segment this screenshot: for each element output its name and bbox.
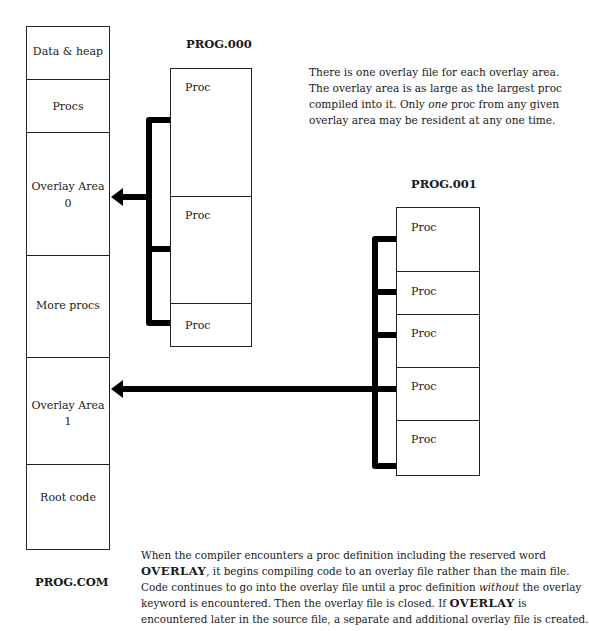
note-line: overlay area may be resident at any one …	[309, 112, 562, 128]
overlay-file-title-000: PROG.000	[186, 37, 252, 51]
segment-label: Overlay Area	[27, 398, 109, 414]
proc-label: Proc	[411, 433, 436, 447]
proc-block: Proc	[171, 304, 251, 348]
bracket-prog-001	[122, 239, 396, 466]
note-line: keyword is encountered. Then the overlay…	[141, 595, 589, 611]
note-overlay-files: There is one overlay file for each overl…	[309, 64, 562, 128]
segment-more-procs: More procs	[27, 256, 109, 358]
note-line: encountered later in the source file, a …	[141, 611, 589, 627]
overlay-file-000-column: Proc Proc Proc	[170, 68, 252, 347]
segment-sublabel: 0	[27, 196, 109, 212]
note-text: the overlay	[519, 581, 581, 593]
note-line: There is one overlay file for each overl…	[309, 64, 562, 80]
note-text: Code continues to go into the overlay fi…	[141, 581, 479, 593]
note-line: Code continues to go into the overlay fi…	[141, 579, 589, 595]
bracket-prog-000	[122, 120, 170, 323]
segment-label: Overlay Area	[27, 179, 109, 195]
note-text: proc from any given	[448, 98, 559, 110]
segment-sublabel: 1	[27, 414, 109, 430]
arrow-left-icon	[111, 380, 123, 398]
segment-label: More procs	[27, 298, 109, 314]
note-emphasis: without	[479, 581, 519, 593]
note-emphasis: one	[428, 98, 447, 110]
proc-label: Proc	[411, 285, 436, 299]
segment-procs: Procs	[27, 80, 109, 133]
segment-label: Procs	[27, 99, 109, 115]
note-text: , it begins compiling code to an overlay…	[206, 565, 569, 577]
proc-label: Proc	[185, 319, 210, 333]
proc-label: Proc	[185, 209, 210, 223]
segment-label: Root code	[27, 490, 109, 506]
segment-overlay-area-1: Overlay Area 1	[27, 358, 109, 465]
proc-block: Proc	[397, 208, 479, 272]
segment-root-code: Root code	[27, 465, 109, 551]
proc-block: Proc	[171, 197, 251, 304]
proc-block: Proc	[397, 421, 479, 477]
note-line: The overlay area is as large as the larg…	[309, 80, 562, 96]
note-line: OVERLAY, it begins compiling code to an …	[141, 563, 589, 579]
keyword-overlay: OVERLAY	[449, 596, 514, 610]
segment-label: Data & heap	[27, 44, 109, 60]
segment-data-heap: Data & heap	[27, 27, 109, 80]
note-compiler-behavior: When the compiler encounters a proc defi…	[141, 547, 589, 627]
main-file-column: Data & heap Procs Overlay Area 0 More pr…	[26, 26, 110, 550]
arrow-left-icon	[111, 188, 123, 206]
note-text: keyword is encountered. Then the overlay…	[141, 597, 449, 609]
overlay-file-001-column: Proc Proc Proc Proc Proc	[396, 207, 480, 476]
proc-block: Proc	[397, 315, 479, 368]
overlay-file-title-001: PROG.001	[411, 177, 477, 191]
note-line: When the compiler encounters a proc defi…	[141, 547, 589, 563]
note-text: is	[515, 597, 527, 609]
note-line: compiled into it. Only one proc from any…	[309, 96, 562, 112]
segment-overlay-area-0: Overlay Area 0	[27, 133, 109, 256]
note-text: compiled into it. Only	[309, 98, 428, 110]
proc-label: Proc	[411, 221, 436, 235]
proc-label: Proc	[411, 380, 436, 394]
proc-label: Proc	[411, 327, 436, 341]
main-file-title: PROG.COM	[35, 575, 109, 589]
proc-block: Proc	[171, 69, 251, 197]
proc-block: Proc	[397, 368, 479, 421]
proc-label: Proc	[185, 81, 210, 95]
keyword-overlay: OVERLAY	[141, 564, 206, 578]
proc-block: Proc	[397, 272, 479, 315]
